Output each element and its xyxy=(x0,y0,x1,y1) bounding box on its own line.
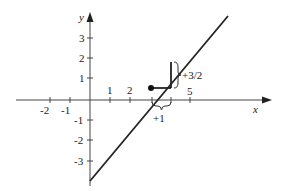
x-tick-label: -1 xyxy=(61,104,70,116)
y-tick-label: -2 xyxy=(74,134,83,146)
marked-point xyxy=(148,85,154,91)
y-tick-label: -3 xyxy=(74,155,84,167)
x-tick-label: -2 xyxy=(40,104,49,116)
x-tick-label: 2 xyxy=(127,84,133,96)
y-tick-label: 2 xyxy=(79,52,85,64)
x-axis-arrow-icon xyxy=(262,97,272,104)
rise-label: +3/2 xyxy=(182,69,202,81)
y-tick-label: -1 xyxy=(74,114,83,126)
y-tick-label: 1 xyxy=(79,72,85,84)
function-line xyxy=(90,16,228,181)
x-tick-label: 5 xyxy=(187,85,193,97)
x-axis-label: x xyxy=(252,103,258,115)
y-axis-arrow-icon xyxy=(87,12,94,22)
run-label: +1 xyxy=(153,112,165,124)
line-graph: x y -2 -1 1 2 5 1 2 3 -1 -2 -3 +3/2 +1 xyxy=(0,0,284,191)
y-tick-label: 3 xyxy=(79,32,85,44)
x-tick-label: 1 xyxy=(107,84,113,96)
y-axis-label: y xyxy=(78,11,84,23)
